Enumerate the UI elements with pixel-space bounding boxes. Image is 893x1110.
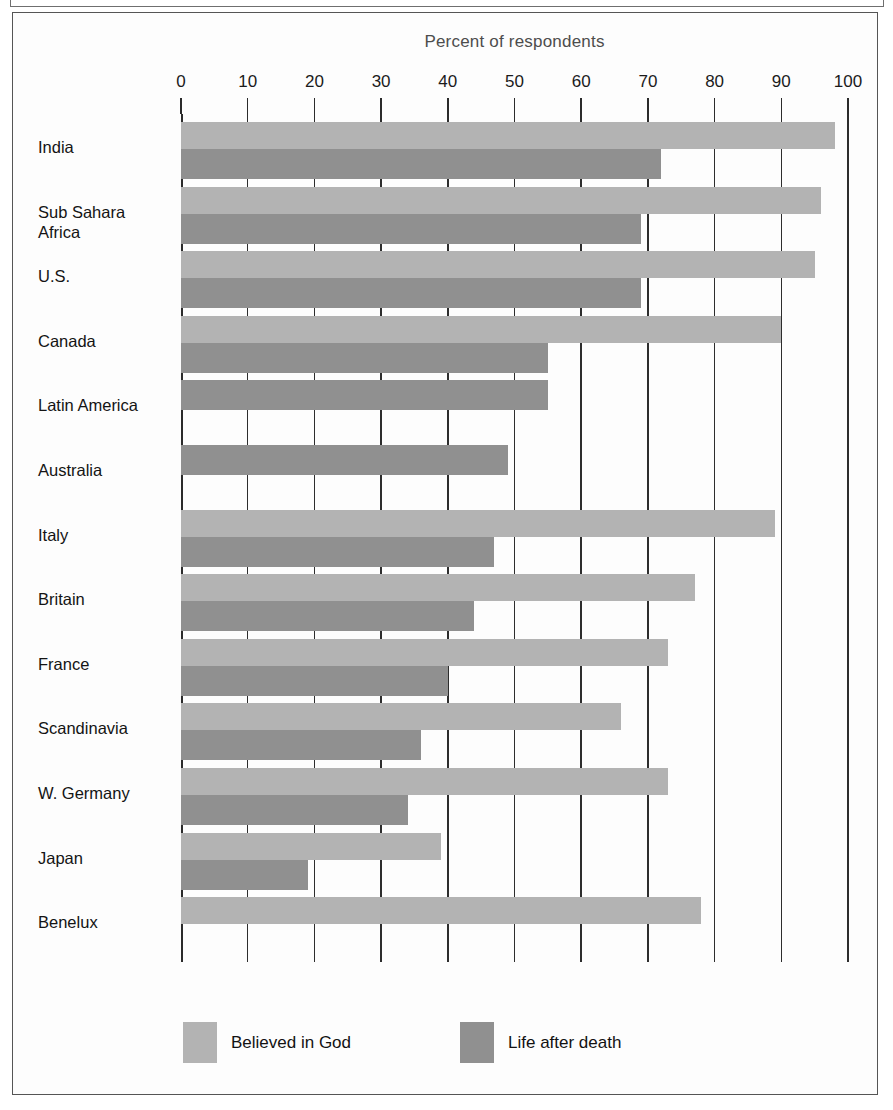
bar-death-japan	[181, 860, 308, 890]
bar-death-u-s	[181, 278, 641, 308]
row-label-canada: Canada	[38, 331, 96, 351]
legend-item-death[interactable]: Life after death	[460, 1022, 621, 1063]
bar-god-india	[181, 122, 835, 149]
x-tick-mark-80	[714, 98, 716, 114]
row-label-japan: Japan	[38, 848, 83, 868]
x-tick-mark-0	[180, 98, 182, 114]
legend-label-god: Believed in God	[231, 1033, 351, 1053]
legend-item-god[interactable]: Believed in God	[183, 1022, 351, 1063]
bar-death-france	[181, 666, 448, 696]
bar-god-france	[181, 639, 668, 666]
x-tick-label-100: 100	[834, 72, 862, 92]
row-label-sub-sahara-africa: Sub Sahara Africa	[38, 202, 125, 242]
legend-swatch-god	[183, 1022, 217, 1063]
bar-death-w-germany	[181, 795, 408, 825]
row-label-india: India	[38, 137, 74, 157]
chart-legend: Believed in GodLife after death	[0, 1022, 893, 1078]
row-label-britain: Britain	[38, 589, 85, 609]
x-tick-mark-10	[247, 98, 249, 114]
row-label-benelux: Benelux	[38, 912, 98, 932]
row-label-w-germany: W. Germany	[38, 783, 130, 803]
x-tick-mark-100	[847, 98, 849, 114]
x-tick-mark-40	[447, 98, 449, 114]
bar-death-italy	[181, 537, 494, 567]
bar-death-sub-sahara-africa	[181, 214, 641, 244]
row-label-scandinavia: Scandinavia	[38, 718, 128, 738]
bar-death-britain	[181, 601, 474, 631]
x-tick-label-80: 80	[705, 72, 724, 92]
gridline-80	[714, 114, 716, 962]
x-tick-label-90: 90	[772, 72, 791, 92]
x-tick-mark-60	[580, 98, 582, 114]
chart-title: Percent of respondents	[181, 32, 848, 52]
legend-swatch-death	[460, 1022, 494, 1063]
bar-death-australia	[181, 445, 508, 475]
x-tick-mark-30	[380, 98, 382, 114]
x-tick-label-20: 20	[305, 72, 324, 92]
x-axis-tick-labels: 0102030405060708090100	[0, 72, 893, 96]
x-tick-mark-50	[514, 98, 516, 114]
gridline-100	[847, 114, 849, 962]
x-tick-mark-70	[647, 98, 649, 114]
row-label-latin-america: Latin America	[38, 395, 138, 415]
x-tick-mark-20	[314, 98, 316, 114]
plot-area	[0, 114, 893, 962]
bar-death-latin-america	[181, 380, 548, 410]
bar-god-scandinavia	[181, 703, 621, 730]
bar-death-scandinavia	[181, 730, 421, 760]
row-label-france: France	[38, 654, 89, 674]
x-tick-label-60: 60	[572, 72, 591, 92]
bar-god-w-germany	[181, 768, 668, 795]
bar-god-italy	[181, 510, 775, 537]
row-label-australia: Australia	[38, 460, 102, 480]
bar-god-u-s	[181, 251, 815, 278]
row-label-u-s: U.S.	[38, 266, 70, 286]
bar-god-benelux	[181, 897, 701, 924]
gridline-90	[781, 114, 783, 962]
x-tick-label-30: 30	[372, 72, 391, 92]
x-tick-label-10: 10	[238, 72, 257, 92]
bar-death-india	[181, 149, 661, 179]
x-tick-label-50: 50	[505, 72, 524, 92]
x-tick-label-70: 70	[638, 72, 657, 92]
row-label-italy: Italy	[38, 525, 68, 545]
bar-god-japan	[181, 833, 441, 860]
x-tick-label-40: 40	[438, 72, 457, 92]
x-tick-label-0: 0	[176, 72, 185, 92]
scan-artifact-top-border	[10, 0, 884, 7]
bar-god-canada	[181, 316, 781, 343]
gridline-70	[647, 114, 649, 962]
bar-god-britain	[181, 574, 695, 601]
x-tick-mark-90	[781, 98, 783, 114]
bar-god-sub-sahara-africa	[181, 187, 821, 214]
legend-label-death: Life after death	[508, 1033, 621, 1053]
bar-death-canada	[181, 343, 548, 373]
